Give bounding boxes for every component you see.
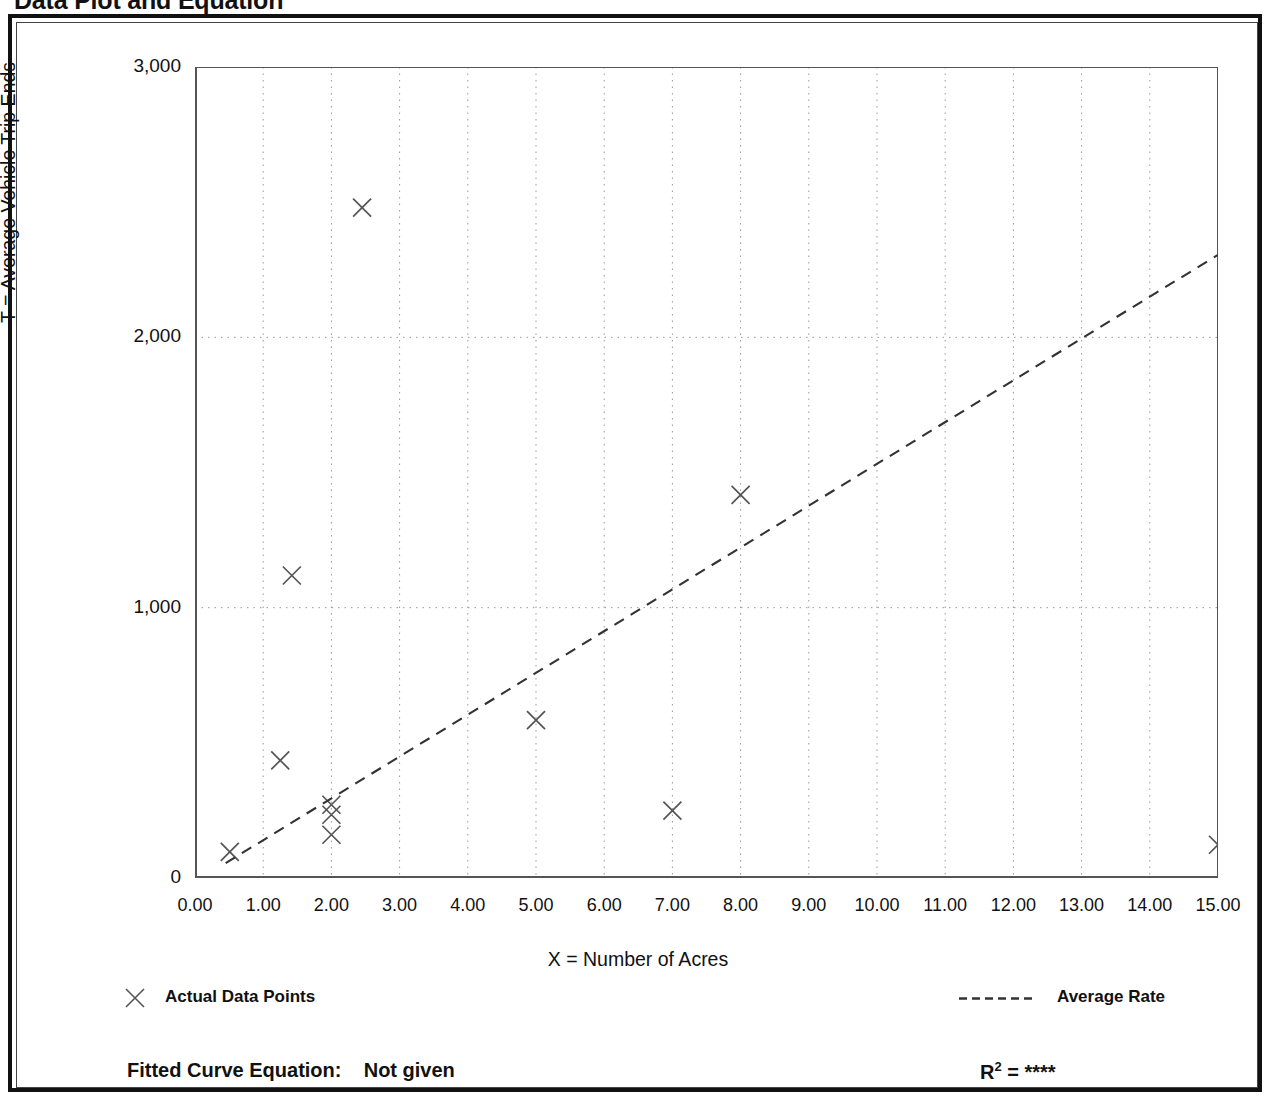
legend-item-average-rate: Average Rate <box>1057 987 1165 1007</box>
data-point-marker <box>283 566 301 584</box>
x-marker-icon <box>123 986 147 1010</box>
plot-canvas <box>195 67 1218 878</box>
y-axis-title: T = Average Vehicle Trip Ends <box>0 0 20 323</box>
page-title: Data Plot and Equation <box>14 0 283 15</box>
r-squared-equals: = <box>1007 1061 1019 1083</box>
chart-outer-frame: T = Average Vehicle Trip Ends X = Number… <box>8 14 1262 1092</box>
data-point-marker <box>1209 836 1218 854</box>
data-point-marker <box>732 486 750 504</box>
fitted-curve-equation: Fitted Curve Equation: Not given <box>127 1059 455 1082</box>
data-point-marker <box>527 711 545 729</box>
r-squared-exponent: 2 <box>994 1059 1001 1074</box>
chart-page: Data Plot and Equation T = Average Vehic… <box>0 0 1276 1106</box>
x-axis-title: X = Number of Acres <box>17 948 1259 971</box>
y-axis-tick-label: 2,000 <box>101 325 181 347</box>
data-point-marker <box>663 802 681 820</box>
plot-area <box>195 67 1218 878</box>
y-axis-tick-label: 1,000 <box>101 596 181 618</box>
data-point-marker <box>221 843 239 861</box>
r-squared-value: R2 = **** <box>980 1059 1056 1084</box>
dashed-line-icon <box>959 997 1035 1000</box>
fitted-curve-equation-label: Fitted Curve Equation: <box>127 1059 341 1081</box>
y-axis-tick-label: 0 <box>101 866 181 888</box>
y-axis-tick-label: 3,000 <box>101 55 181 77</box>
chart-inner-frame: T = Average Vehicle Trip Ends X = Number… <box>16 22 1258 1088</box>
fitted-curve-equation-value: Not given <box>364 1059 455 1081</box>
r-squared-stars: **** <box>1025 1061 1056 1083</box>
legend-item-actual-data-points: Actual Data Points <box>165 987 315 1007</box>
data-point-marker <box>353 199 371 217</box>
x-axis-tick-label: 15.00 <box>1178 895 1258 916</box>
r-squared-base: R <box>980 1061 994 1083</box>
data-point-marker <box>271 751 289 769</box>
